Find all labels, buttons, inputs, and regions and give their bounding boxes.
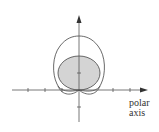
polar-axis-arrow-icon [140, 88, 148, 93]
vertical-axis-arrow-icon [77, 15, 82, 23]
polar-axis-label-line2: axis [129, 108, 145, 117]
polar-axis-label-line1: polar [129, 98, 150, 107]
